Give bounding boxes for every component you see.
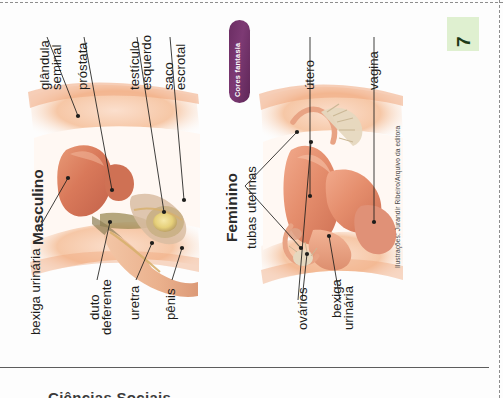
horizontal-rule xyxy=(0,367,489,368)
male-section-title: Masculino xyxy=(30,169,47,245)
illustration-credit: Ilustrações: Jurandir Ribeiro/Arquivo da… xyxy=(394,126,401,268)
cropped-footer-text: Ciências Sociais xyxy=(48,389,248,398)
male-label-prostata: próstata xyxy=(76,42,90,90)
cores-fantasia-badge: Cores fantasia xyxy=(229,20,250,103)
female-section-title: Feminino xyxy=(224,173,241,242)
male-label-uretra: uretra xyxy=(128,286,142,320)
male-label-duto-deferente-line2: deferente xyxy=(100,279,114,335)
page-number: 7 xyxy=(453,36,475,47)
female-label-tubas-uterinas: tubas uterinas xyxy=(245,166,259,249)
female-label-utero: útero xyxy=(303,60,317,90)
female-label-bexiga-line2: urinária xyxy=(342,286,356,330)
female-label-vagina: vagina xyxy=(367,51,381,90)
male-label-bexiga-urinaria: bexiga urinária xyxy=(29,248,43,335)
cores-fantasia-label: Cores fantasia xyxy=(233,43,242,97)
page-number-chip: 7 xyxy=(447,17,479,51)
male-label-glandula-seminal-line2: seminal xyxy=(50,45,64,90)
male-label-penis: pênis xyxy=(164,288,178,320)
scanned-textbook-page: Ciências Sociais 7 Cores fantasia xyxy=(0,0,503,398)
male-label-saco-escrotal-line2: escrotal xyxy=(174,44,188,90)
cut-line-right xyxy=(499,0,500,398)
male-label-testiculo-esquerdo-line2: esquerdo xyxy=(140,35,154,90)
female-label-ovarios: ovários xyxy=(296,287,310,330)
